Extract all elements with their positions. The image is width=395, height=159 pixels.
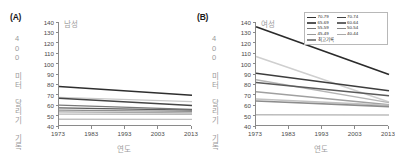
y-tick-mark xyxy=(253,115,256,116)
y-tick-label: 50 xyxy=(233,112,251,119)
legend-item[interactable]: 40-44 xyxy=(337,32,359,37)
y-tick-mark xyxy=(253,94,256,95)
y-tick-label: 80 xyxy=(36,81,54,88)
y-tick-label: 60 xyxy=(233,102,251,109)
legend-item-label: 40-44 xyxy=(347,32,358,36)
y-tick-mark xyxy=(56,32,59,33)
y-tick-label: 90 xyxy=(36,71,54,78)
y-tick-mark xyxy=(56,22,59,23)
y-tick-label: 50 xyxy=(36,112,54,119)
y-tick-mark xyxy=(56,84,59,85)
panel-a-title: 남성 xyxy=(64,18,78,29)
legend-item[interactable]: 최고기록 xyxy=(307,37,334,42)
y-tick-label: 100 xyxy=(36,60,54,67)
panel-b-ylabel: 400 미터 달리기 기록 (초) xyxy=(210,34,218,134)
y-tick-label: 120 xyxy=(233,39,251,46)
legend-line-swatch xyxy=(307,39,316,40)
x-tick-mark xyxy=(288,126,289,129)
legend-line-swatch xyxy=(307,22,316,23)
y-tick-mark xyxy=(56,74,59,75)
x-tick-label: 1983 xyxy=(281,130,295,137)
legend-item-label: 최고기록 xyxy=(318,38,334,42)
legend-line-swatch xyxy=(337,22,346,23)
x-tick-mark xyxy=(388,126,389,129)
panel-a-series-lines xyxy=(59,22,192,126)
y-tick-label: 70 xyxy=(36,91,54,98)
legend-line-swatch xyxy=(307,34,316,35)
y-tick-mark xyxy=(253,32,256,33)
series-line xyxy=(256,57,389,103)
x-tick-label: 2003 xyxy=(348,130,362,137)
y-tick-mark xyxy=(56,53,59,54)
y-tick-mark xyxy=(253,74,256,75)
x-tick-mark xyxy=(191,126,192,129)
x-tick-label: 2013 xyxy=(381,130,395,137)
y-tick-mark xyxy=(56,63,59,64)
panel-b: (B) 400 미터 달리기 기록 (초) 여성 405060708090100… xyxy=(197,0,394,159)
x-tick-label: 2003 xyxy=(151,130,165,137)
y-tick-label: 140 xyxy=(36,19,54,26)
y-tick-label: 110 xyxy=(233,50,251,57)
x-tick-mark xyxy=(58,126,59,129)
panel-b-title: 여성 xyxy=(261,18,275,29)
figure-container: (A) 400 미터 달리기 기록 (초) 남성 405060708090100… xyxy=(0,0,395,159)
x-tick-mark xyxy=(91,126,92,129)
legend-item-label: 45-49 xyxy=(318,32,329,36)
x-tick-label: 1973 xyxy=(51,130,65,137)
y-tick-mark xyxy=(56,42,59,43)
y-tick-label: 70 xyxy=(233,91,251,98)
y-tick-label: 130 xyxy=(233,29,251,36)
y-tick-label: 90 xyxy=(233,71,251,78)
legend-line-swatch xyxy=(337,17,346,18)
y-tick-mark xyxy=(253,63,256,64)
y-tick-mark xyxy=(253,53,256,54)
x-tick-label: 1993 xyxy=(315,130,329,137)
y-tick-label: 40 xyxy=(233,123,251,130)
y-tick-label: 40 xyxy=(36,123,54,130)
legend-line-swatch xyxy=(307,17,316,18)
series-line xyxy=(59,86,192,95)
x-tick-mark xyxy=(255,126,256,129)
panel-b-xlabel: 연도 xyxy=(314,143,328,154)
x-tick-label: 1993 xyxy=(118,130,132,137)
y-tick-mark xyxy=(56,94,59,95)
panel-a-tag: (A) xyxy=(10,12,21,22)
y-tick-label: 130 xyxy=(36,29,54,36)
y-tick-label: 100 xyxy=(233,60,251,67)
x-tick-label: 1983 xyxy=(84,130,98,137)
panel-b-tag: (B) xyxy=(197,12,208,22)
series-line xyxy=(256,73,389,91)
legend-line-swatch xyxy=(337,28,346,29)
panel-a-xlabel: 연도 xyxy=(117,143,131,154)
panel-a-ylabel: 400 미터 달리기 기록 (초) xyxy=(13,34,21,134)
x-tick-mark xyxy=(354,126,355,129)
x-tick-mark xyxy=(321,126,322,129)
legend-item-label: 70-74 xyxy=(347,15,358,19)
y-tick-label: 60 xyxy=(36,102,54,109)
y-tick-mark xyxy=(253,105,256,106)
legend-item-label: 70-79 xyxy=(318,15,329,19)
y-tick-mark xyxy=(56,115,59,116)
series-line xyxy=(59,112,192,113)
x-tick-mark xyxy=(124,126,125,129)
series-line xyxy=(256,80,389,103)
legend-column-1: 70-7965-6955-5945-49최고기록 xyxy=(307,15,334,43)
y-tick-label: 80 xyxy=(233,81,251,88)
y-tick-mark xyxy=(253,22,256,23)
x-tick-mark xyxy=(157,126,158,129)
panel-a-plot-area xyxy=(58,22,191,126)
y-tick-label: 120 xyxy=(36,39,54,46)
x-tick-label: 2013 xyxy=(184,130,198,137)
y-tick-mark xyxy=(56,105,59,106)
y-tick-label: 110 xyxy=(36,50,54,57)
legend-column-2: 70-7460-6450-5440-44 xyxy=(337,15,359,43)
y-tick-mark xyxy=(253,84,256,85)
legend-line-swatch xyxy=(307,28,316,29)
panel-a: (A) 400 미터 달리기 기록 (초) 남성 405060708090100… xyxy=(0,0,197,159)
legend-line-swatch xyxy=(337,34,346,35)
x-tick-label: 1973 xyxy=(248,130,262,137)
y-tick-label: 140 xyxy=(233,19,251,26)
legend: 70-7965-6955-5945-49최고기록 70-7460-6450-54… xyxy=(304,12,388,45)
y-tick-mark xyxy=(253,42,256,43)
